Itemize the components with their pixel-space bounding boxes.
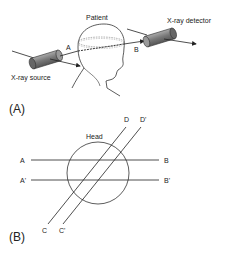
beam-through-head bbox=[78, 44, 124, 51]
label-a: A bbox=[20, 157, 25, 164]
label-d-prime: D' bbox=[140, 116, 146, 123]
label-d: D bbox=[124, 116, 129, 123]
head-circle bbox=[67, 142, 129, 204]
label-a-prime: A' bbox=[20, 177, 26, 184]
detector-label: X-ray detector bbox=[167, 17, 212, 25]
label-c-prime: C' bbox=[59, 227, 65, 234]
label-b: B bbox=[164, 157, 169, 164]
source-label: X-ray source bbox=[11, 74, 51, 82]
xray-source-icon bbox=[28, 49, 64, 69]
patient-label: Patient bbox=[86, 14, 108, 21]
xray-diagram: Patient X-ray detector X-ray source A B … bbox=[0, 0, 231, 254]
panel-b-label: (B) bbox=[9, 230, 25, 244]
panel-a: Patient X-ray detector X-ray source A B … bbox=[9, 14, 212, 116]
detector-output-arrow bbox=[164, 39, 196, 44]
beam-out bbox=[124, 41, 144, 44]
point-b-label: B bbox=[134, 46, 139, 53]
panel-a-label: (A) bbox=[9, 102, 25, 116]
panel-b: Head A B A' B' C D C' D' (B) bbox=[9, 116, 170, 244]
xray-detector-icon bbox=[142, 27, 178, 47]
head-label: Head bbox=[86, 133, 103, 140]
label-c: C bbox=[42, 227, 47, 234]
label-b-prime: B' bbox=[164, 177, 170, 184]
line-c-d bbox=[48, 127, 126, 224]
beam-in bbox=[60, 51, 78, 56]
point-a-label: A bbox=[66, 44, 71, 51]
patient-head-outline bbox=[78, 24, 124, 96]
patient-neck-outline bbox=[72, 47, 84, 88]
source-input-line bbox=[12, 51, 34, 58]
